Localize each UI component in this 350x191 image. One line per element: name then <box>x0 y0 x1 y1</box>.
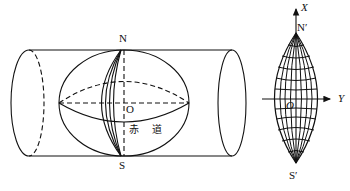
north-pole-label: N <box>119 33 127 44</box>
y-axis-label: Y <box>338 93 344 104</box>
south-pole-label: S <box>119 160 125 171</box>
meridian-curve <box>291 33 297 163</box>
projected-origin-label: O <box>286 100 294 111</box>
equator-front <box>59 103 189 122</box>
cylinder-right-end <box>218 50 246 156</box>
graticule <box>262 9 330 163</box>
sphere <box>59 50 189 156</box>
cylinder-left-end-front <box>11 50 29 156</box>
cylinder-left-end-back <box>29 50 44 156</box>
equator-label: 赤 道 <box>129 125 167 135</box>
projected-north-label: N′ <box>297 22 307 33</box>
x-axis-label: X <box>301 2 308 13</box>
origin-label: O <box>126 104 134 115</box>
meridian-curve <box>296 33 302 163</box>
projected-south-label: S′ <box>289 170 298 181</box>
